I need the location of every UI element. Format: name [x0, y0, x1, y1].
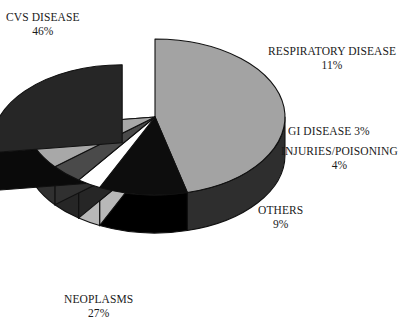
slice-label-injuries-poisoning-pct: 4% [281, 158, 398, 172]
pie-chart-figure: CVS DISEASE 46% RESPIRATORY DISEASE 11% … [0, 0, 407, 336]
slice-label-neoplasms: NEOPLASMS 27% [64, 292, 133, 320]
slice-label-cvs-disease-pct: 46% [6, 24, 80, 38]
slice-label-neoplasms-pct: 27% [64, 306, 133, 320]
slice-label-respiratory-disease: RESPIRATORY DISEASE 11% [268, 44, 396, 72]
slice-label-respiratory-disease-name: RESPIRATORY DISEASE [268, 45, 396, 57]
slice-label-respiratory-disease-pct: 11% [268, 58, 396, 72]
slice-label-injuries-poisoning-name: INJURIES/POISONING [281, 145, 398, 157]
slice-label-cvs-disease-name: CVS DISEASE [6, 11, 80, 23]
slice-label-others: OTHERS 9% [258, 203, 303, 231]
slice-label-gi-disease-text: GI DISEASE 3% [288, 125, 370, 137]
slice-label-gi-disease: GI DISEASE 3% [288, 124, 370, 138]
slice-label-others-pct: 9% [258, 217, 303, 231]
slice-label-injuries-poisoning: INJURIES/POISONING 4% [281, 144, 398, 172]
slice-label-others-name: OTHERS [258, 204, 303, 216]
slice-label-cvs-disease: CVS DISEASE 46% [6, 10, 80, 38]
slice-label-neoplasms-name: NEOPLASMS [64, 293, 133, 305]
